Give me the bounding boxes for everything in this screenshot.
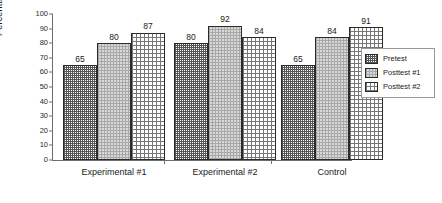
x-tick-mark — [164, 160, 165, 164]
bar-slot: 80 — [174, 14, 208, 160]
bar-chart: Percentage 0102030405060708090100 658087… — [0, 0, 442, 203]
y-tick-mark — [49, 43, 53, 44]
y-axis-title: Percentage — [0, 0, 4, 52]
x-tick-label: Experimental #1 — [81, 168, 146, 177]
y-tick-mark — [49, 160, 53, 161]
y-tick-label: 70 — [26, 54, 48, 62]
y-tick-mark — [49, 145, 53, 146]
y-tick-mark — [49, 72, 53, 73]
bar-value-label: 84 — [254, 27, 263, 36]
bar-value-label: 87 — [143, 22, 152, 31]
legend: PretestPosttest #1Posttest #2 — [361, 48, 435, 98]
bar[interactable]: 80 — [174, 43, 208, 160]
bar-value-label: 80 — [109, 33, 118, 42]
bar-value-label: 92 — [220, 15, 229, 24]
bar[interactable]: 92 — [208, 26, 242, 160]
bar-group: 809284 — [174, 14, 276, 160]
bar[interactable]: 84 — [242, 37, 276, 160]
legend-item[interactable]: Posttest #2 — [365, 80, 431, 94]
y-tick-label: 60 — [26, 69, 48, 77]
bar-value-label: 91 — [361, 17, 370, 26]
y-tick-mark — [49, 57, 53, 58]
y-tick-label: 90 — [26, 25, 48, 33]
y-tick-mark — [49, 87, 53, 88]
bar-slot: 92 — [208, 14, 242, 160]
x-tick-mark — [271, 160, 272, 164]
bar-value-label: 65 — [293, 55, 302, 64]
x-tick-label: Control — [317, 168, 346, 177]
y-tick-mark — [49, 28, 53, 29]
y-tick-mark — [49, 101, 53, 102]
y-tick-label: 30 — [26, 112, 48, 120]
y-tick-mark — [49, 116, 53, 117]
bar[interactable]: 80 — [97, 43, 131, 160]
y-tick-label: 80 — [26, 39, 48, 47]
legend-item[interactable]: Posttest #1 — [365, 66, 431, 80]
bar-value-label: 65 — [75, 55, 84, 64]
y-tick-label: 50 — [26, 83, 48, 91]
legend-swatch-icon — [365, 54, 378, 64]
y-axis-line — [52, 14, 53, 161]
bar-slot: 87 — [131, 14, 165, 160]
bar[interactable]: 87 — [131, 33, 165, 160]
bar-slot: 80 — [97, 14, 131, 160]
legend-label: Posttest #2 — [383, 83, 421, 91]
legend-swatch-icon — [365, 68, 378, 78]
bar[interactable]: 65 — [281, 65, 315, 160]
y-tick-mark — [49, 130, 53, 131]
bar-value-label: 80 — [186, 33, 195, 42]
x-tick-label: Experimental #2 — [192, 168, 257, 177]
legend-swatch-icon — [365, 82, 378, 92]
y-tick-label: 10 — [26, 142, 48, 150]
bar[interactable]: 65 — [63, 65, 97, 160]
legend-item[interactable]: Pretest — [365, 52, 431, 66]
y-tick-label: 0 — [26, 156, 48, 164]
x-axis-line — [52, 160, 352, 161]
bar-group: 658087 — [63, 14, 165, 160]
y-tick-mark — [49, 14, 53, 15]
legend-label: Posttest #1 — [383, 69, 421, 77]
y-tick-label: 20 — [26, 127, 48, 135]
y-tick-label: 40 — [26, 98, 48, 106]
bar[interactable]: 84 — [315, 37, 349, 160]
legend-label: Pretest — [383, 55, 407, 63]
bar-slot: 84 — [242, 14, 276, 160]
bar-slot: 65 — [63, 14, 97, 160]
bar-slot: 65 — [281, 14, 315, 160]
y-tick-label: 100 — [26, 10, 48, 18]
bar-value-label: 84 — [327, 27, 336, 36]
bar-slot: 84 — [315, 14, 349, 160]
